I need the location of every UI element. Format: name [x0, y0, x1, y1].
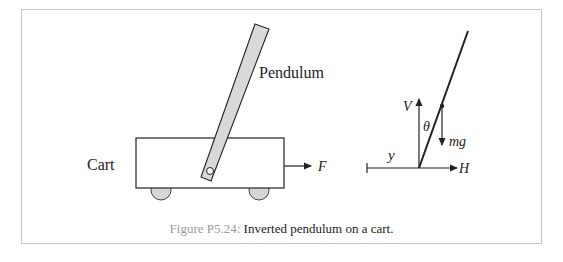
cart-label: Cart: [87, 156, 115, 173]
figure-caption-text: Inverted pendulum on a cart.: [240, 221, 393, 236]
figure-caption: Figure P5.24: Inverted pendulum on a car…: [0, 221, 563, 237]
free-body-diagram: V θ mg y H: [367, 31, 470, 176]
pendulum-pivot: [207, 168, 214, 175]
cart-diagram: Pendulum Cart F: [87, 24, 327, 200]
force-label: F: [317, 159, 327, 174]
horizontal-force-label: H: [458, 161, 470, 176]
vertical-force-label: V: [403, 99, 413, 114]
figure-caption-label: Figure P5.24:: [170, 221, 241, 236]
gravity-label: mg: [449, 134, 466, 149]
angle-label: θ: [423, 119, 430, 134]
pendulum-label: Pendulum: [259, 64, 324, 81]
displacement-label: y: [386, 147, 395, 163]
